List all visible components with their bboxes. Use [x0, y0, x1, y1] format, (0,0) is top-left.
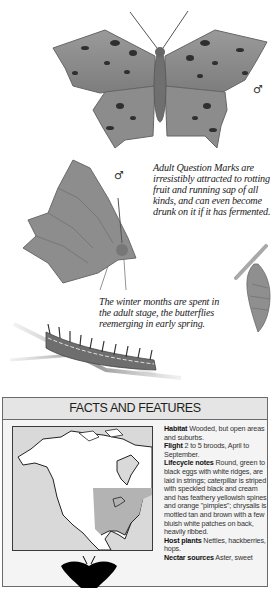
facts-title: FACTS AND FEATURES: [3, 398, 267, 420]
facts-text: Habitat Wooded, but open areas and subur…: [164, 425, 268, 563]
fact-value: Aster, sweet: [215, 553, 252, 562]
male-symbol-ventral: ♂: [114, 169, 124, 182]
facts-and-features-panel: FACTS AND FEATURES Habitat Wooded, but o…: [2, 397, 268, 587]
actual-size-silhouette: [59, 556, 119, 588]
male-symbol-dorsal: ♂: [253, 83, 263, 96]
fact-habitat: Habitat Wooded, but open areas and subur…: [164, 425, 268, 442]
fact-value: Round, green to black eggs with white ri…: [164, 458, 267, 536]
fact-label: Nectar sources: [164, 553, 214, 562]
butterfly-dorsal-icon: [45, 8, 270, 154]
chrysalis-illustration: [228, 244, 272, 336]
fact-host-plants: Host plants Nettles, hackberries, hops.: [164, 537, 268, 554]
chrysalis-icon: [228, 244, 272, 336]
fact-nectar-sources: Nectar sources Aster, sweet: [164, 554, 268, 563]
fact-lifecycle: Lifecycle notes Round, green to black eg…: [164, 459, 268, 536]
range-map: [12, 426, 153, 551]
butterfly-silhouette-icon: [59, 556, 119, 588]
fact-flight: Flight 2 to 5 broods, April to September…: [164, 442, 268, 459]
north-america-map-icon: [13, 427, 152, 550]
caterpillar-icon: [6, 312, 186, 382]
caption-adult-feeding: Adult Question Marks are irresistibly at…: [153, 162, 271, 217]
adult-dorsal-illustration: [45, 8, 270, 154]
caterpillar-illustration: [6, 312, 186, 382]
